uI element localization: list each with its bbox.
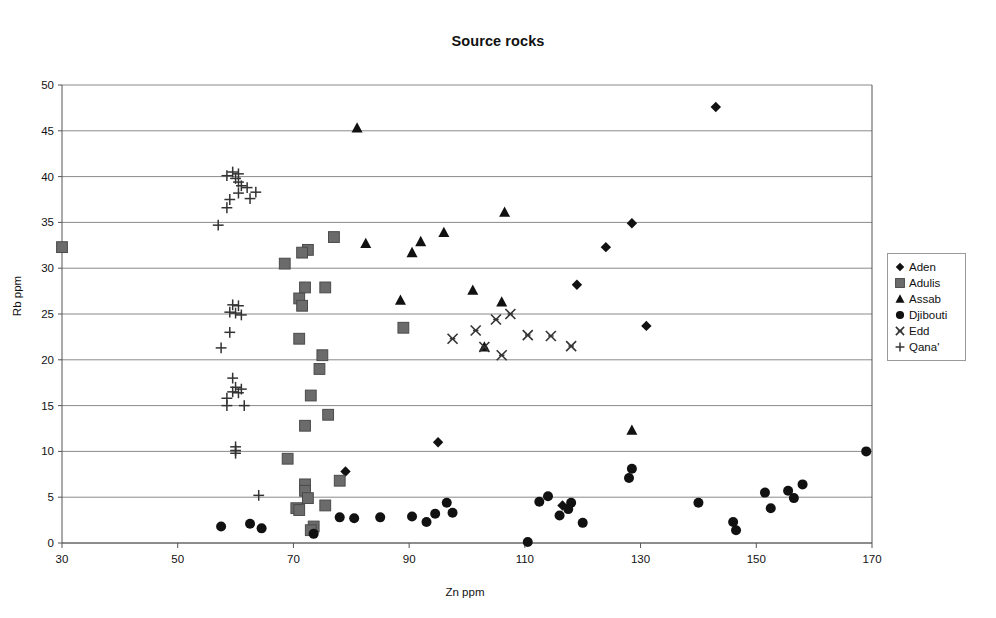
marker-circle <box>861 446 871 456</box>
data-points <box>57 102 872 547</box>
marker-diamond <box>433 437 443 447</box>
triangle-icon <box>893 292 907 306</box>
marker-cross <box>566 341 576 351</box>
legend-item-qana[interactable]: Qana' <box>893 339 961 355</box>
marker-triangle <box>395 294 406 304</box>
legend-marker-cross-icon <box>893 324 907 338</box>
legend-item-label: Aden <box>909 260 936 274</box>
chart-figure: Source rocks 051015202530354045503050709… <box>0 0 996 618</box>
series-assab <box>352 122 638 435</box>
marker-plus <box>230 308 241 319</box>
y-tick-label: 25 <box>41 308 54 320</box>
marker-circle <box>578 518 588 528</box>
marker-triangle <box>352 122 363 132</box>
marker-diamond <box>896 263 905 272</box>
legend-item-edd[interactable]: Edd <box>893 323 961 339</box>
marker-plus <box>242 182 253 193</box>
marker-square <box>297 300 308 311</box>
marker-circle <box>523 537 533 547</box>
marker-square <box>329 232 340 243</box>
marker-circle <box>766 503 776 513</box>
y-tick-label: 0 <box>48 537 54 549</box>
marker-plus <box>227 299 238 310</box>
marker-circle <box>731 525 741 535</box>
marker-circle <box>335 512 345 522</box>
marker-circle <box>216 522 226 532</box>
marker-circle <box>896 311 904 319</box>
marker-plus <box>896 343 905 352</box>
y-tick-label: 45 <box>41 125 54 137</box>
x-tick-label: 70 <box>287 553 300 565</box>
cross-icon <box>893 324 907 338</box>
legend-item-djibouti[interactable]: Djibouti <box>893 307 961 323</box>
legend-item-assab[interactable]: Assab <box>893 291 961 307</box>
legend-marker-plus-icon <box>893 340 907 354</box>
marker-circle <box>760 488 770 498</box>
marker-circle <box>430 509 440 519</box>
marker-circle <box>257 523 267 533</box>
marker-plus <box>221 400 232 411</box>
series-aden <box>340 102 721 511</box>
marker-plus <box>230 382 241 393</box>
y-tick-label: 40 <box>41 171 54 183</box>
marker-circle <box>349 513 359 523</box>
marker-square <box>57 242 68 253</box>
square-icon <box>893 276 907 290</box>
marker-triangle <box>499 207 510 217</box>
legend-item-adulis[interactable]: Adulis <box>893 275 961 291</box>
marker-square <box>334 475 345 486</box>
legend-item-label: Qana' <box>909 340 939 354</box>
marker-circle <box>798 479 808 489</box>
marker-circle <box>543 491 553 501</box>
marker-square <box>305 390 316 401</box>
marker-plus <box>224 307 235 318</box>
marker-plus <box>233 188 244 199</box>
x-axis-label: Zn ppm <box>0 586 930 598</box>
marker-square <box>282 453 293 464</box>
marker-plus <box>213 220 224 231</box>
marker-circle <box>245 519 255 529</box>
marker-circle <box>563 504 573 514</box>
series-adulis <box>57 232 409 536</box>
circle-icon <box>893 308 907 322</box>
y-tick-label: 5 <box>48 491 54 503</box>
marker-triangle <box>360 238 371 248</box>
diamond-icon <box>893 260 907 274</box>
marker-plus <box>230 448 241 459</box>
axis-ticks <box>58 85 872 548</box>
marker-plus <box>253 490 264 501</box>
marker-plus <box>221 202 232 213</box>
marker-square <box>398 322 409 333</box>
marker-circle <box>693 498 703 508</box>
legend-item-label: Edd <box>909 324 929 338</box>
x-tick-label: 90 <box>403 553 416 565</box>
axis-tick-labels: 0510152025303540455030507090110130150170 <box>41 79 881 565</box>
legend-marker-triangle-icon <box>893 292 907 306</box>
legend-marker-square-icon <box>893 276 907 290</box>
series-qana <box>213 167 264 501</box>
marker-square <box>300 420 311 431</box>
marker-square <box>314 364 325 375</box>
marker-cross <box>546 331 556 341</box>
marker-plus <box>250 187 261 198</box>
marker-triangle <box>415 236 426 246</box>
grid-lines <box>62 85 872 543</box>
marker-plus <box>224 327 235 338</box>
marker-square <box>320 500 331 511</box>
y-tick-label: 30 <box>41 262 54 274</box>
marker-plus <box>216 342 227 353</box>
marker-plus <box>224 194 235 205</box>
x-tick-label: 130 <box>631 553 650 565</box>
marker-diamond <box>572 279 582 289</box>
x-tick-label: 110 <box>516 553 534 565</box>
marker-square <box>279 258 290 269</box>
marker-circle <box>624 473 634 483</box>
marker-triangle <box>895 294 904 302</box>
legend-item-label: Djibouti <box>909 308 947 322</box>
marker-circle <box>534 497 544 507</box>
marker-circle <box>555 511 565 521</box>
legend-marker-diamond-icon <box>893 260 907 274</box>
marker-circle <box>422 517 432 527</box>
plus-icon <box>893 340 907 354</box>
legend-item-aden[interactable]: Aden <box>893 259 961 275</box>
